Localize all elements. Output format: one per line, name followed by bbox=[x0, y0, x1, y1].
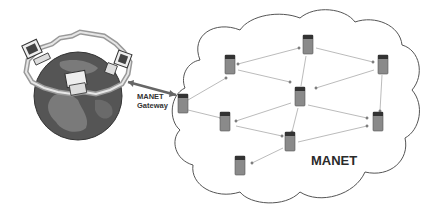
gateway-label-line1: MANET bbox=[137, 92, 168, 101]
mobile-node-icon bbox=[220, 112, 230, 131]
gateway-label-line2: Gateway bbox=[137, 101, 168, 110]
mobile-node-icon bbox=[378, 55, 388, 74]
manet-cloud bbox=[172, 10, 419, 203]
mobile-node-icon bbox=[303, 35, 313, 54]
mobile-node-icon bbox=[225, 55, 235, 74]
mobile-node-icon bbox=[285, 132, 295, 151]
manet-cloud-label: MANET bbox=[311, 153, 357, 168]
mobile-node-icon bbox=[295, 87, 305, 106]
mobile-node-icon bbox=[235, 156, 245, 175]
gateway-node-icon bbox=[178, 94, 188, 113]
gateway-label: MANET Gateway bbox=[137, 92, 168, 110]
manet-diagram bbox=[0, 0, 436, 215]
mobile-node-icon bbox=[373, 112, 383, 131]
